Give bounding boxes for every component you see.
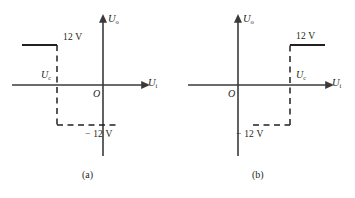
y-axis-label-a: Uo: [108, 14, 119, 25]
y-axis-label-a-base: U: [108, 13, 116, 24]
origin-label-b: O: [228, 89, 235, 99]
y-axis-label-b: Uo: [243, 14, 254, 25]
y-axis-label-b-base: U: [243, 13, 251, 24]
figure-root: Uo Ui O 12 V − 12 V Uc (a): [0, 0, 355, 198]
x-axis-label-a: Ui: [148, 78, 157, 89]
panel-b-plot: [178, 0, 355, 198]
x-axis-label-a-sub: i: [156, 82, 158, 89]
x-axis-label-b-sub: i: [340, 82, 342, 89]
caption-a: (a): [82, 170, 93, 180]
high-level-label-a: 12 V: [63, 33, 82, 43]
threshold-label-a: Uc: [41, 70, 51, 80]
high-level-label-b: 12 V: [296, 32, 315, 42]
threshold-label-a-sub: c: [48, 74, 51, 81]
panel-b: Uo Ui O 12 V − 12 V Uc (b): [178, 0, 355, 198]
origin-label-a: O: [93, 89, 100, 99]
low-level-label-b: − 12 V: [236, 130, 264, 140]
threshold-label-b-sub: c: [303, 74, 306, 81]
caption-b: (b): [252, 170, 264, 180]
x-axis-label-b-base: U: [332, 77, 340, 88]
low-level-label-a: − 12 V: [85, 130, 113, 140]
x-axis-label-b: Ui: [332, 78, 341, 89]
panel-a: Uo Ui O 12 V − 12 V Uc (a): [0, 0, 177, 198]
y-axis-label-a-sub: o: [116, 18, 119, 25]
x-axis-label-a-base: U: [148, 77, 156, 88]
threshold-label-b: Uc: [296, 70, 306, 80]
y-axis-label-b-sub: o: [251, 18, 254, 25]
